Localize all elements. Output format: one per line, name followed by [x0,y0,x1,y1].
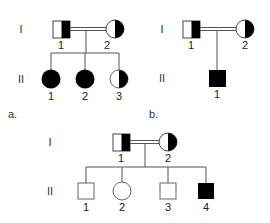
c-gen1-female-2 [159,133,177,151]
individual-number: 1 [83,201,89,213]
b-gen1-male-1 [183,21,200,38]
individual-number: 3 [116,90,122,102]
half-filled-carrier [119,70,128,88]
individual-number: 2 [82,90,88,102]
generation-label: I [160,23,163,35]
individual-number: 2 [165,152,171,164]
b-gen2-male-1-affected [209,70,226,87]
individual-number: 4 [203,201,209,213]
a-gen2-female-1-affected [42,70,61,89]
generation-label: II [18,73,24,85]
half-filled-carrier [62,21,71,38]
a-gen1-male-1 [53,21,70,38]
c-gen1-male-1 [113,134,130,151]
half-filled-carrier [115,20,124,38]
a-gen2-female-3 [110,70,128,88]
individual-number: 1 [48,90,54,102]
c-gen2-male-3-unaffected [160,183,176,199]
generation-label: II [159,72,165,84]
a-gen1-female-2 [106,20,124,38]
half-filled-carrier [245,20,254,38]
individual-number: 1 [188,39,194,51]
individual-number: 2 [119,201,125,213]
individual-number: 1 [214,88,220,100]
pedigree-c [86,141,206,184]
pedigree-b [200,28,236,71]
panel-label-b: b. [149,108,158,120]
half-filled-carrier [122,134,131,151]
c-gen2-female-2-unaffected [113,182,131,200]
half-filled-carrier [192,21,201,38]
half-filled-carrier [168,133,177,151]
individual-number: 2 [104,39,110,51]
individual-number: 1 [118,152,124,164]
b-gen1-female-2 [236,20,254,38]
generation-label: I [19,23,22,35]
a-gen2-female-2-affected [76,70,95,89]
c-gen2-male-4-affected [198,183,214,199]
generation-label: II [47,185,53,197]
individual-number: 2 [242,39,248,51]
generation-label: I [48,136,51,148]
panel-label-a: a. [8,108,17,120]
pedigree-figure: I II 1 2 1 2 3 a. I II 1 2 1 b. I II 1 2… [0,0,270,223]
c-gen2-male-1-unaffected [78,183,94,199]
individual-number: 1 [58,39,64,51]
individual-number: 3 [165,201,171,213]
